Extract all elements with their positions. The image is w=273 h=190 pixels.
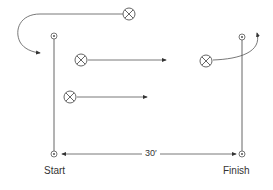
path-player-4	[213, 33, 258, 60]
post-icon-start-top	[51, 33, 57, 39]
player-icon-3	[64, 91, 76, 103]
post-icon-finish-top	[239, 34, 245, 40]
player-icon-2	[75, 54, 87, 66]
post-icon-start-bottom	[51, 151, 57, 157]
player-icon-1	[123, 8, 135, 20]
distance-label: 30′	[144, 148, 158, 158]
start-label: Start	[44, 165, 65, 176]
finish-label: Finish	[223, 165, 250, 176]
post-icon-finish-bottom	[239, 151, 245, 157]
drill-diagram	[0, 0, 273, 190]
player-icon-4	[200, 55, 212, 67]
path-player-1	[18, 14, 123, 53]
